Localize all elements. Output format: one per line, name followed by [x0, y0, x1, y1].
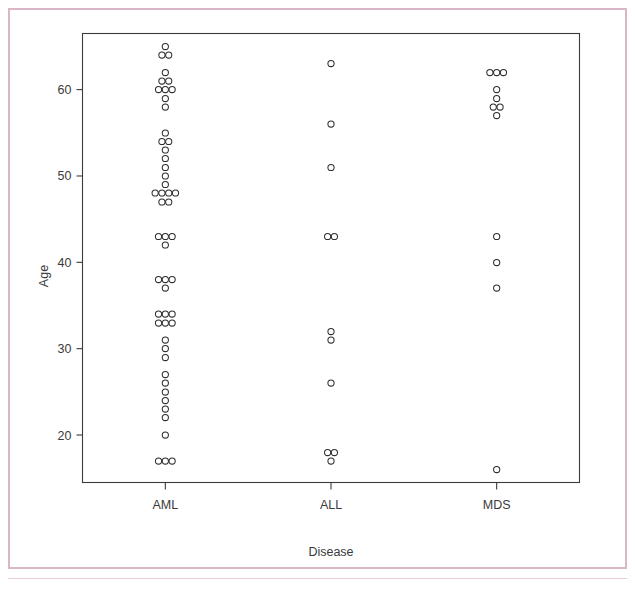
data-point	[162, 104, 168, 110]
data-point	[172, 190, 178, 196]
data-point	[166, 190, 172, 196]
data-point	[155, 311, 161, 317]
data-point	[169, 458, 175, 464]
y-tick-label: 60	[58, 83, 72, 97]
data-point	[162, 345, 168, 351]
data-point	[494, 466, 500, 472]
x-axis-ticks: AMLALLMDS	[152, 483, 510, 512]
data-point	[152, 190, 158, 196]
data-point	[162, 173, 168, 179]
x-tick-label: ALL	[320, 498, 342, 512]
data-point	[162, 276, 168, 282]
data-point	[497, 104, 503, 110]
data-point	[325, 449, 331, 455]
data-point	[155, 458, 161, 464]
data-point	[162, 354, 168, 360]
x-axis-title: Disease	[308, 545, 353, 559]
data-point	[162, 130, 168, 136]
data-point	[328, 328, 334, 334]
data-point	[494, 233, 500, 239]
data-point	[328, 60, 334, 66]
data-point	[328, 380, 334, 386]
data-point	[162, 155, 168, 161]
data-point	[159, 138, 165, 144]
data-point	[500, 69, 506, 75]
y-tick-label: 20	[58, 429, 72, 443]
data-point	[155, 233, 161, 239]
data-point	[162, 164, 168, 170]
data-point	[162, 406, 168, 412]
data-point	[162, 380, 168, 386]
data-point	[494, 95, 500, 101]
data-point	[162, 43, 168, 49]
data-point	[162, 458, 168, 464]
y-tick-label: 40	[58, 256, 72, 270]
data-point	[162, 371, 168, 377]
data-point	[166, 138, 172, 144]
data-point	[331, 233, 337, 239]
y-tick-label: 30	[58, 342, 72, 356]
page-canvas: 2030405060 AMLALLMDS Age Disease	[0, 0, 635, 593]
y-tick-label: 50	[58, 169, 72, 183]
data-point	[169, 233, 175, 239]
data-point	[490, 104, 496, 110]
data-point	[494, 69, 500, 75]
data-point	[155, 86, 161, 92]
data-point	[162, 147, 168, 153]
data-point	[169, 320, 175, 326]
x-tick-label: AML	[152, 498, 178, 512]
data-point	[162, 242, 168, 248]
data-point	[162, 311, 168, 317]
data-point	[155, 276, 161, 282]
y-axis-title: Age	[37, 265, 51, 287]
data-point	[166, 199, 172, 205]
data-point	[155, 320, 161, 326]
data-point	[162, 337, 168, 343]
data-point	[162, 86, 168, 92]
data-point	[169, 276, 175, 282]
data-point	[159, 190, 165, 196]
data-point	[162, 285, 168, 291]
data-point	[169, 86, 175, 92]
y-axis-ticks: 2030405060	[58, 83, 83, 442]
x-tick-label: MDS	[483, 498, 511, 512]
data-point	[162, 432, 168, 438]
data-point	[328, 121, 334, 127]
data-point	[162, 233, 168, 239]
data-point	[494, 112, 500, 118]
data-point	[328, 458, 334, 464]
data-point	[169, 311, 175, 317]
strip-plot-figure: 2030405060 AMLALLMDS Age Disease	[0, 0, 635, 593]
data-points-layer	[152, 43, 507, 472]
data-point	[162, 397, 168, 403]
data-point	[166, 52, 172, 58]
data-point	[162, 181, 168, 187]
data-point	[328, 337, 334, 343]
data-point	[159, 78, 165, 84]
data-point	[328, 164, 334, 170]
data-point	[166, 78, 172, 84]
data-point	[162, 320, 168, 326]
plot-svg: 2030405060 AMLALLMDS Age Disease	[0, 0, 635, 593]
data-point	[494, 86, 500, 92]
data-point	[159, 52, 165, 58]
data-point	[162, 95, 168, 101]
data-point	[162, 69, 168, 75]
data-point	[331, 449, 337, 455]
data-point	[325, 233, 331, 239]
data-point	[494, 285, 500, 291]
plot-frame	[83, 34, 580, 483]
data-point	[162, 414, 168, 420]
data-point	[162, 389, 168, 395]
data-point	[159, 199, 165, 205]
data-point	[487, 69, 493, 75]
data-point	[494, 259, 500, 265]
